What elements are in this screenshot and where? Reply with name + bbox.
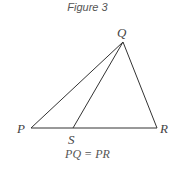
segment-qr xyxy=(123,42,157,128)
segment-qs xyxy=(73,42,123,128)
figure-caption: PQ = PR xyxy=(0,147,175,162)
label-q: Q xyxy=(117,25,127,40)
label-p: P xyxy=(16,121,25,136)
segment-pq xyxy=(31,42,123,128)
label-s: S xyxy=(68,132,75,147)
label-r: R xyxy=(159,121,168,136)
